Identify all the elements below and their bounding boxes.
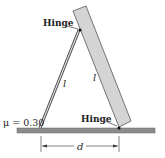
rod	[40, 30, 79, 128]
ground	[17, 128, 155, 133]
diagram: Hinge Hinge μ = 0.30 l l d	[0, 0, 165, 158]
plank-length-label: l	[93, 72, 96, 83]
distance-label: d	[77, 141, 83, 152]
hinge-bottom-label: Hinge	[81, 114, 112, 124]
hinge-top-label: Hinge	[43, 18, 74, 28]
hinge-top-icon	[78, 28, 81, 31]
friction-label: μ = 0.30	[3, 117, 44, 128]
rod-length-label: l	[63, 78, 66, 89]
hinge-bottom-icon	[117, 126, 120, 129]
plank	[73, 6, 131, 127]
